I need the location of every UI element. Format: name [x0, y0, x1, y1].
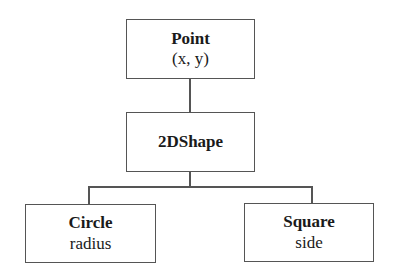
- node-point: Point (x, y): [126, 19, 255, 79]
- node-circle-attribute: radius: [70, 234, 112, 254]
- node-circle-title: Circle: [68, 213, 112, 233]
- connector-horizontal-branch: [88, 186, 312, 188]
- node-2dshape-title: 2DShape: [158, 132, 223, 152]
- node-square-attribute: side: [295, 233, 322, 253]
- node-2dshape: 2DShape: [126, 112, 255, 172]
- node-square: Square side: [244, 203, 374, 262]
- connector-to-circle: [88, 186, 90, 204]
- connector-to-square: [311, 186, 313, 203]
- connector-point-2dshape: [189, 78, 191, 112]
- connector-2dshape-down: [189, 171, 191, 187]
- node-point-title: Point: [171, 29, 210, 49]
- node-circle: Circle radius: [25, 204, 156, 263]
- node-point-attribute: (x, y): [172, 49, 209, 69]
- node-square-title: Square: [283, 212, 335, 232]
